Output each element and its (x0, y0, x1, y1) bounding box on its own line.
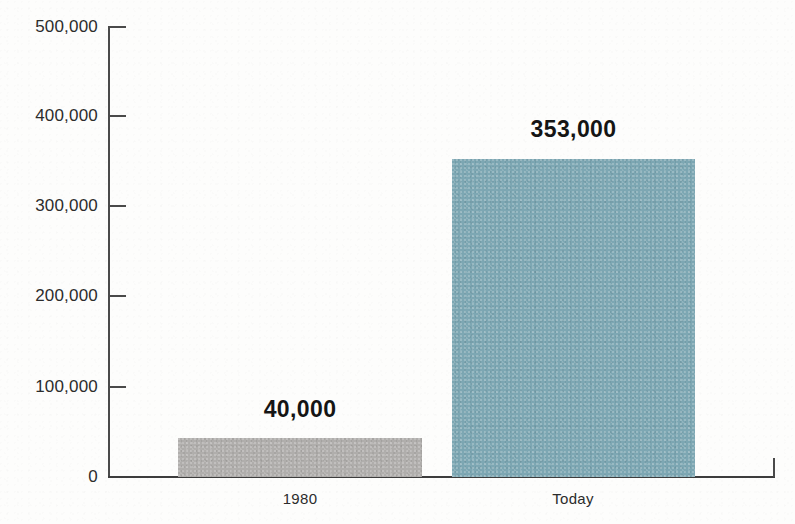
y-axis-line (108, 26, 110, 478)
bar-chart-figure: 500,000 400,000 300,000 200,000 100,000 … (0, 0, 795, 524)
y-tick-label-0: 0 (88, 467, 98, 487)
bar-today-value-label: 353,000 (531, 116, 617, 143)
bar-1980-texture (178, 438, 422, 477)
plot-area: 500,000 400,000 300,000 200,000 100,000 … (0, 0, 795, 524)
y-tick-200000 (108, 295, 126, 297)
x-axis-label-today: Today (552, 490, 594, 507)
y-tick-500000 (108, 26, 126, 28)
y-tick-label-400000: 400,000 (35, 106, 98, 126)
bar-1980-value-label: 40,000 (264, 396, 337, 423)
y-tick-label-100000: 100,000 (35, 377, 98, 397)
y-tick-300000 (108, 205, 126, 207)
bar-1980[interactable]: 40,000 (178, 438, 422, 477)
bar-today[interactable]: 353,000 (452, 159, 695, 477)
y-tick-label-300000: 300,000 (35, 196, 98, 216)
x-axis-label-1980: 1980 (283, 490, 318, 507)
y-tick-100000 (108, 386, 126, 388)
x-axis-end-cap (773, 458, 775, 477)
y-tick-label-200000: 200,000 (35, 286, 98, 306)
bar-today-texture (452, 159, 695, 477)
y-tick-400000 (108, 115, 126, 117)
y-tick-label-500000: 500,000 (35, 17, 98, 37)
